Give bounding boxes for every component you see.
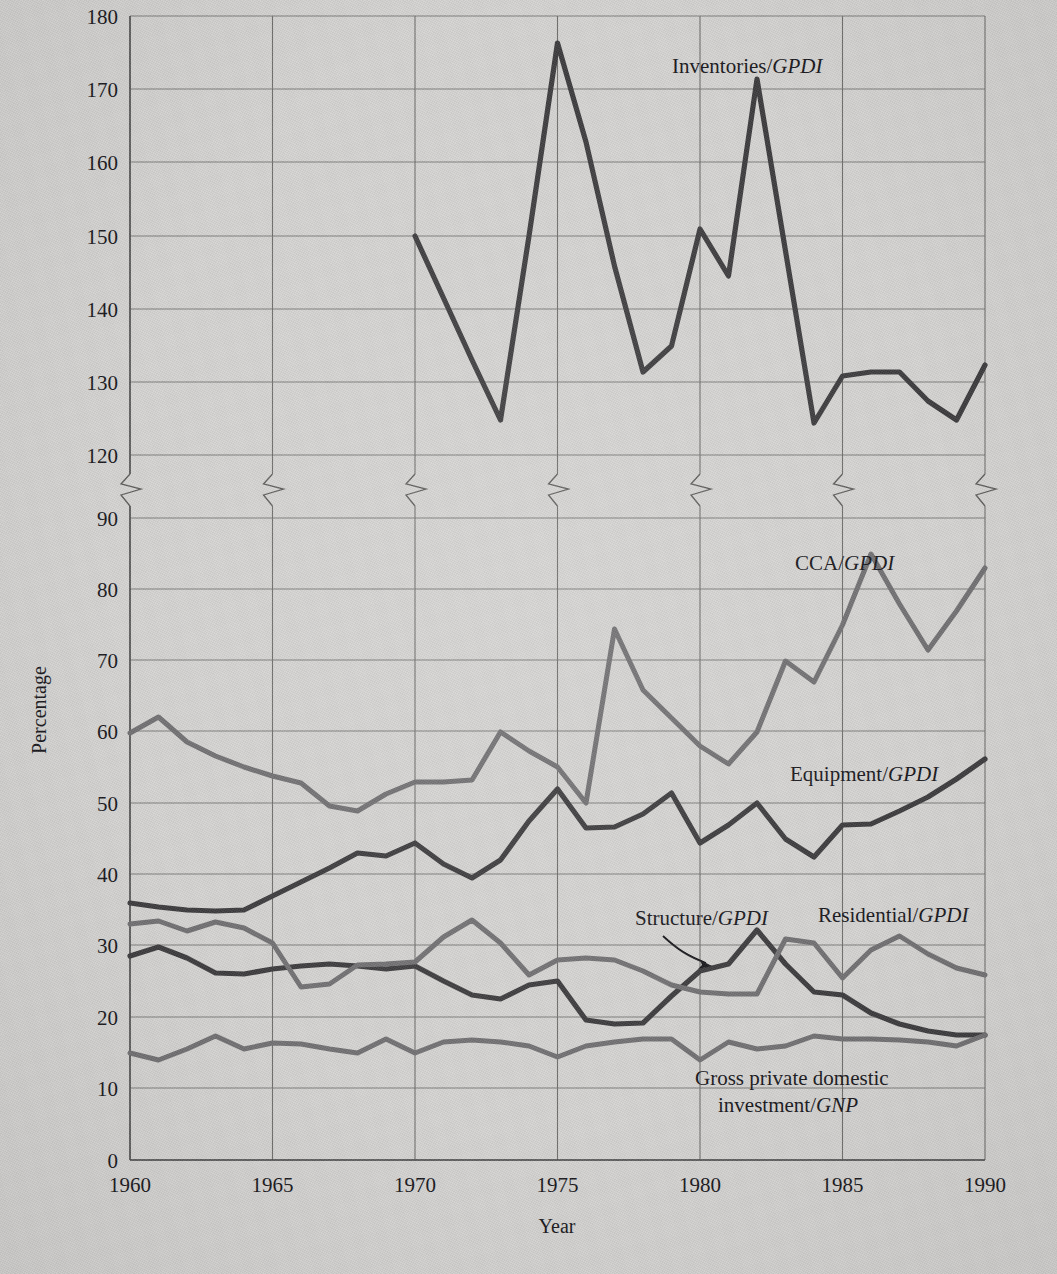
x-tick-1965: 1965 (252, 1173, 294, 1197)
label-gpdi-gnp-line2: investment/GNP (718, 1093, 858, 1117)
y-tick-140: 140 (87, 298, 119, 322)
y-tick-10: 10 (97, 1077, 118, 1101)
y-tick-90: 90 (97, 507, 118, 531)
y-tick-120: 120 (87, 444, 119, 468)
x-tick-1960: 1960 (109, 1173, 151, 1197)
x-tick-1985: 1985 (822, 1173, 864, 1197)
y-tick-160: 160 (87, 151, 119, 175)
y-tick-130: 130 (87, 371, 119, 395)
y-tick-60: 60 (97, 720, 118, 744)
x-tick-1990: 1990 (964, 1173, 1006, 1197)
label-cca: CCA/GPDI (795, 551, 895, 575)
y-tick-40: 40 (97, 863, 118, 887)
x-tick-1980: 1980 (679, 1173, 721, 1197)
chart-figure: 180 170 160 150 140 130 120 90 80 70 60 … (0, 0, 1057, 1274)
y-tick-50: 50 (97, 792, 118, 816)
x-tick-1970: 1970 (394, 1173, 436, 1197)
y-tick-30: 30 (97, 934, 118, 958)
y-tick-180: 180 (87, 5, 119, 29)
chart-background (0, 0, 1057, 1274)
y-tick-80: 80 (97, 578, 118, 602)
y-axis-title: Percentage (28, 666, 51, 754)
chart-svg: 180 170 160 150 140 130 120 90 80 70 60 … (0, 0, 1057, 1274)
label-equipment: Equipment/GPDI (790, 762, 939, 786)
y-tick-70: 70 (97, 649, 118, 673)
y-tick-150: 150 (87, 225, 119, 249)
label-gpdi-gnp-line1: Gross private domestic (695, 1066, 889, 1090)
y-tick-0: 0 (108, 1149, 119, 1173)
y-tick-20: 20 (97, 1006, 118, 1030)
x-tick-1975: 1975 (537, 1173, 579, 1197)
label-inventories: Inventories/GPDI (672, 54, 823, 78)
label-residential: Residential/GPDI (818, 903, 969, 927)
x-axis-title: Year (539, 1215, 576, 1237)
label-structure: Structure/GPDI (635, 906, 769, 930)
y-tick-170: 170 (87, 78, 119, 102)
